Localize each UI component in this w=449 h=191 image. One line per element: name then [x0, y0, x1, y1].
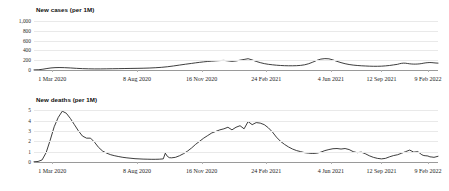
- x-tick-mark: [137, 70, 138, 72]
- x-tick-mark: [331, 162, 332, 164]
- x-tick-label: 16 Nov 2020: [186, 76, 217, 82]
- panel-title-new-cases: New cases (per 1M): [36, 6, 94, 13]
- panel-title-new-deaths: New deaths (per 1M): [36, 96, 97, 103]
- x-tick-label: 1 Mar 2020: [38, 76, 66, 82]
- gridline: [34, 131, 438, 132]
- gridline: [34, 31, 438, 32]
- x-tick-label: 8 Aug 2020: [123, 76, 151, 82]
- y-tick-label: 5: [28, 107, 31, 113]
- gridline: [34, 152, 438, 153]
- covid-trends-figure: New cases (per 1M) 02004006008001,000 1 …: [0, 0, 449, 191]
- x-tick-mark: [52, 70, 53, 72]
- x-tick-mark: [428, 162, 429, 164]
- x-axis-new-cases: 1 Mar 20208 Aug 202016 Nov 202024 Feb 20…: [34, 70, 438, 84]
- y-tick-label: 200: [23, 57, 31, 63]
- x-tick-mark: [381, 162, 382, 164]
- x-tick-label: 12 Sep 2021: [366, 76, 396, 82]
- gridline: [34, 21, 438, 22]
- x-tick-mark: [428, 70, 429, 72]
- y-tick-label: 600: [23, 38, 31, 44]
- gridline: [34, 41, 438, 42]
- x-tick-mark: [331, 70, 332, 72]
- x-axis-new-deaths: 1 Mar 20208 Aug 202016 Nov 202024 Feb 20…: [34, 162, 438, 176]
- x-tick-mark: [137, 162, 138, 164]
- y-tick-label: 800: [23, 28, 31, 34]
- series-line-new-cases: [34, 16, 438, 70]
- y-tick-label: 1: [28, 149, 31, 155]
- x-tick-mark: [381, 70, 382, 72]
- panel-new-cases: New cases (per 1M) 02004006008001,000 1 …: [0, 0, 449, 95]
- y-tick-label: 0: [28, 67, 31, 73]
- x-tick-label: 24 Feb 2021: [251, 168, 281, 174]
- y-tick-label: 2: [28, 138, 31, 144]
- x-tick-label: 9 Feb 2022: [414, 76, 441, 82]
- x-tick-label: 8 Aug 2020: [123, 168, 151, 174]
- gridline: [34, 60, 438, 61]
- plot-area-new-cases: 02004006008001,000: [34, 16, 438, 70]
- x-tick-mark: [202, 162, 203, 164]
- x-tick-label: 16 Nov 2020: [186, 168, 217, 174]
- x-tick-label: 4 Jun 2021: [318, 76, 344, 82]
- x-tick-label: 12 Sep 2021: [366, 168, 396, 174]
- y-tick-label: 0: [28, 159, 31, 165]
- x-tick-mark: [266, 70, 267, 72]
- panel-new-deaths: New deaths (per 1M) 012345 1 Mar 20208 A…: [0, 92, 449, 191]
- gridline: [34, 50, 438, 51]
- x-tick-label: 1 Mar 2020: [38, 168, 66, 174]
- y-tick-label: 3: [28, 128, 31, 134]
- series-line-new-deaths: [34, 106, 438, 162]
- gridline: [34, 110, 438, 111]
- plot-area-new-deaths: 012345: [34, 106, 438, 162]
- x-tick-mark: [52, 162, 53, 164]
- x-tick-mark: [202, 70, 203, 72]
- gridline: [34, 121, 438, 122]
- y-tick-label: 4: [28, 118, 31, 124]
- x-tick-label: 9 Feb 2022: [414, 168, 441, 174]
- x-tick-label: 24 Feb 2021: [251, 76, 281, 82]
- x-tick-mark: [266, 162, 267, 164]
- y-tick-label: 400: [23, 47, 31, 53]
- y-tick-label: 1,000: [19, 18, 31, 24]
- gridline: [34, 141, 438, 142]
- x-tick-label: 4 Jun 2021: [318, 168, 344, 174]
